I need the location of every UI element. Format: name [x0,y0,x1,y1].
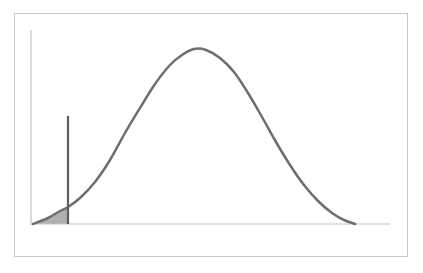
normal-distribution-plot [0,0,423,273]
normal-curve-path [33,49,355,224]
screenshot-root: — —— —— ——— —— ———— [0,0,423,273]
